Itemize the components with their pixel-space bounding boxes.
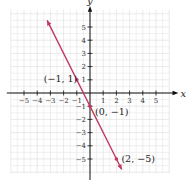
data-point <box>88 104 92 108</box>
y-tick-label: −5 <box>76 156 86 164</box>
y-tick-label: −1 <box>76 103 86 111</box>
point-label: (0, −1) <box>95 106 129 117</box>
y-tick-label: 3 <box>82 50 86 58</box>
x-axis-label: x <box>180 88 186 99</box>
data-point <box>115 157 119 161</box>
x-tick-label: −2 <box>58 97 68 105</box>
y-axis-label: y <box>86 0 93 6</box>
point-label: (−1, 1) <box>44 73 78 84</box>
x-tick-label: −3 <box>45 97 55 105</box>
y-tick-label: −2 <box>76 116 86 124</box>
x-tick-label: 3 <box>127 97 131 105</box>
y-tick-label: −4 <box>76 142 87 150</box>
point-label: (2, −5) <box>121 153 155 164</box>
y-tick-label: 5 <box>82 24 86 32</box>
x-tick-label: −5 <box>19 97 29 105</box>
y-tick-label: 2 <box>82 63 86 71</box>
x-tick-label: 5 <box>154 97 158 105</box>
y-tick-label: −3 <box>76 129 86 137</box>
x-tick-label: 2 <box>114 97 118 105</box>
y-tick-label: 4 <box>82 37 87 45</box>
x-tick-label: −4 <box>32 97 43 105</box>
y-axis-arrow-icon <box>88 6 92 12</box>
x-axis-arrow-icon <box>173 91 179 95</box>
x-tick-label: 4 <box>141 97 146 105</box>
x-tick-label: 1 <box>101 97 105 105</box>
coordinate-plane-chart: −5−4−3−2−11234554321−1−2−3−4−5 (−1, 1)(0… <box>0 0 187 180</box>
y-tick-label: 1 <box>82 76 86 84</box>
